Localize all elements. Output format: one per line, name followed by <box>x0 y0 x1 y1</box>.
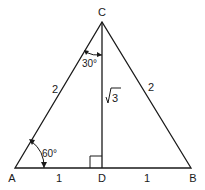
right-angle-marker <box>90 156 102 168</box>
side-label-db: 1 <box>144 172 150 184</box>
side-label-cd: 3 <box>112 92 118 104</box>
vertex-label-a: A <box>8 172 16 184</box>
angle-label-a: 60° <box>42 148 57 159</box>
side-label-bc: 2 <box>148 81 154 93</box>
vertex-label-d: D <box>98 172 106 184</box>
arrowhead-a-bottom <box>41 162 47 168</box>
side-label-ac: 2 <box>52 83 58 95</box>
triangle-abc <box>15 22 191 168</box>
angle-label-c: 30° <box>82 58 97 69</box>
arrowhead-c-left <box>84 50 89 55</box>
triangle-diagram: C A D B 2 2 1 1 3 60° 30° <box>0 0 205 190</box>
vertex-label-b: B <box>189 172 196 184</box>
arrowhead-c-right <box>97 52 102 57</box>
side-label-ad: 1 <box>56 172 62 184</box>
vertex-label-c: C <box>98 6 106 18</box>
